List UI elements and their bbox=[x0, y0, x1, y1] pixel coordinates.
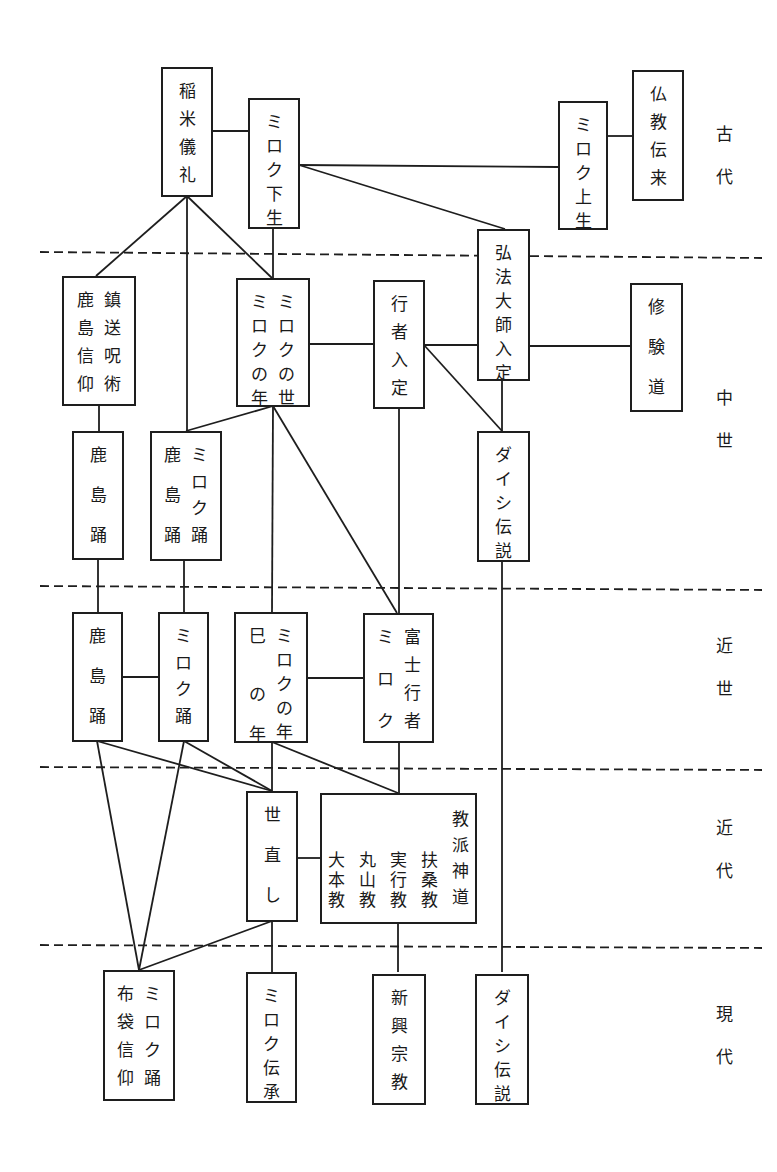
node-miroku-yo-toshi: ミ ロ ク の 世 ミ ロ ク の 年 bbox=[236, 278, 310, 407]
node-column: 巳 の 年 bbox=[249, 624, 266, 732]
node-column: 稲 米 儀 礼 bbox=[179, 79, 196, 187]
node-column-omoto-kyo: 大 本 教 bbox=[328, 850, 345, 910]
node-column: ミ ロ ク 踊 bbox=[175, 624, 192, 728]
node-column: 布 袋 信 仰 bbox=[117, 982, 134, 1090]
node-column: ミ ロ ク 伝 承 bbox=[263, 984, 280, 1094]
node-column: 鹿 島 踊 bbox=[89, 624, 106, 728]
node-column: 世 直 し bbox=[264, 803, 281, 907]
node-column: ミ ロ ク の 年 bbox=[251, 290, 268, 398]
era-label-kindai: 近 代 bbox=[716, 814, 733, 882]
node-shugendo: 修 験 道 bbox=[630, 283, 683, 412]
node-column: ミ ロ ク 踊 bbox=[144, 982, 161, 1090]
node-column: ミ ロ ク 踊 bbox=[191, 443, 208, 547]
node-kyoha-shinto: 教 派 神 道 扶 桑 教 実 行 教 丸 山 教 大 本 教 bbox=[320, 793, 477, 924]
node-kashima-odori-chusei: 鹿 島 踊 bbox=[72, 431, 124, 560]
diagram-canvas: 稲 米 儀 礼 ミ ロ ク 下 生 ミ ロ ク 上 生 仏 教 伝 来 bbox=[0, 0, 777, 1172]
node-column: ミ ロ ク の 世 bbox=[278, 290, 295, 398]
era-label-chusei: 中 世 bbox=[716, 384, 733, 452]
node-fuji-gyoja: 富 士 行 者 ミ ロ ク bbox=[363, 613, 434, 743]
node-column-maruyama-kyo: 丸 山 教 bbox=[359, 850, 376, 910]
node-miroku-gesho: ミ ロ ク 下 生 bbox=[248, 98, 300, 229]
era-label-kinsei: 近 世 bbox=[716, 632, 733, 700]
node-inamai-girei: 稲 米 儀 礼 bbox=[161, 67, 213, 197]
era-divider-kindai-gendai bbox=[40, 945, 762, 948]
node-column: 鎮 送 呪 術 bbox=[104, 288, 121, 396]
node-column: ミ ロ ク bbox=[377, 625, 394, 733]
node-kobo-daishi-nyujo: 弘 法 大 師 入 定 bbox=[477, 229, 530, 381]
node-miroku-odori-kinsei: ミ ロ ク 踊 bbox=[158, 612, 209, 742]
node-column: 富 士 行 者 bbox=[404, 625, 421, 733]
node-column: 修 験 道 bbox=[648, 295, 665, 399]
era-label-kodai: 古 代 bbox=[716, 120, 733, 188]
node-column: ダ イ シ 伝 説 bbox=[494, 986, 511, 1096]
node-bukkyo-denrai: 仏 教 伝 来 bbox=[632, 70, 684, 201]
node-column: 弘 法 大 師 入 定 bbox=[495, 241, 512, 371]
node-hotei-miroku-odori: ミ ロ ク 踊 布 袋 信 仰 bbox=[103, 970, 175, 1101]
node-column: 鹿 島 踊 bbox=[164, 443, 181, 547]
node-column: 新 興 宗 教 bbox=[391, 986, 408, 1094]
node-mi-no-toshi: ミ ロ ク の 年 巳 の 年 bbox=[234, 612, 308, 743]
node-miroku-densho: ミ ロ ク 伝 承 bbox=[246, 972, 297, 1103]
node-daishi-densetsu-gendai: ダ イ シ 伝 説 bbox=[475, 974, 529, 1105]
node-column-jikko-kyo: 実 行 教 bbox=[390, 850, 407, 910]
era-label-gendai: 現 代 bbox=[716, 1000, 733, 1068]
node-daishi-densetsu-chusei: ダ イ シ 伝 説 bbox=[477, 431, 530, 562]
node-column: 仏 教 伝 来 bbox=[650, 82, 667, 190]
node-column: 鹿 島 踊 bbox=[90, 443, 107, 547]
node-miroku-josho: ミ ロ ク 上 生 bbox=[558, 101, 608, 230]
node-shinko-shukyo: 新 興 宗 教 bbox=[372, 974, 426, 1105]
era-divider-kinsei-kindai bbox=[40, 767, 762, 770]
era-divider-kodai-chusei bbox=[40, 252, 762, 258]
node-kashima-odori-kinsei: 鹿 島 踊 bbox=[72, 612, 123, 742]
node-yonaoshi: 世 直 し bbox=[246, 791, 298, 922]
node-column: ミ ロ ク の 年 bbox=[276, 624, 293, 732]
node-column-kyoha-shinto: 教 派 神 道 bbox=[452, 806, 469, 910]
node-kashima-miroku-odori: ミ ロ ク 踊 鹿 島 踊 bbox=[150, 431, 222, 561]
node-column: ミ ロ ク 上 生 bbox=[575, 113, 592, 221]
era-divider-chusei-kinsei bbox=[40, 586, 762, 590]
node-column: ダ イ シ 伝 説 bbox=[495, 443, 512, 553]
node-column: 行 者 入 定 bbox=[391, 292, 408, 400]
node-column: ミ ロ ク 下 生 bbox=[266, 110, 283, 220]
node-column-fuso-kyo: 扶 桑 教 bbox=[421, 850, 438, 910]
node-gyoja-nyujo: 行 者 入 定 bbox=[373, 280, 425, 409]
node-column: 鹿 島 信 仰 bbox=[77, 288, 94, 396]
node-kashima-chinso: 鎮 送 呪 術 鹿 島 信 仰 bbox=[62, 276, 136, 406]
